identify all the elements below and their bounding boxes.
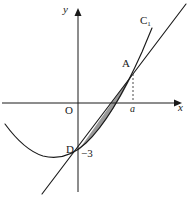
graph-svg <box>0 0 192 200</box>
y-axis-arrowhead <box>75 8 82 16</box>
x-value-at-a-label: a <box>130 104 135 114</box>
y-intercept-value-label: −3 <box>81 148 93 159</box>
origin-label: O <box>65 105 73 116</box>
y-axis-label: y <box>63 4 68 15</box>
curve-c1-subscript: 1 <box>147 20 151 28</box>
secant-line <box>42 4 186 194</box>
curve-c1-label: C1 <box>140 15 151 26</box>
x-axis-label: x <box>178 102 183 113</box>
point-a-label: A <box>122 58 130 69</box>
figure-canvas: y x O A a D −3 C1 <box>0 0 192 200</box>
point-d-label: D <box>66 144 74 155</box>
